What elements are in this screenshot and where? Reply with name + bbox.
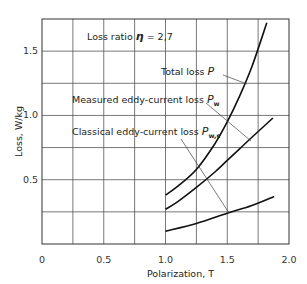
x-tick-label: 2.0 bbox=[281, 254, 296, 265]
classical-loss-label: Classical eddy-current loss Pw,c bbox=[72, 125, 220, 140]
loss-ratio-annotation: Loss ratio η = 2,7 bbox=[87, 30, 173, 43]
x-tick-label: 0 bbox=[39, 254, 45, 265]
x-axis-label: Polarization, T bbox=[147, 268, 214, 279]
y-axis-label: Loss, W/kg bbox=[13, 106, 24, 157]
loss-chart: 00.51.01.52.00.51.01.5Polarization, TLos… bbox=[0, 0, 307, 284]
total-loss-leader bbox=[223, 75, 247, 84]
total-loss-curve bbox=[166, 23, 267, 195]
y-tick-label: 1.0 bbox=[23, 109, 38, 120]
y-tick-label: 0.5 bbox=[23, 174, 38, 185]
total-loss-label: Total loss P bbox=[160, 65, 215, 78]
x-tick-label: 1.5 bbox=[220, 254, 235, 265]
x-tick-label: 1.0 bbox=[158, 254, 173, 265]
x-tick-label: 0.5 bbox=[96, 254, 111, 265]
y-tick-label: 1.5 bbox=[23, 45, 38, 56]
measured-loss-label: Measured eddy-current loss Pw bbox=[72, 93, 220, 108]
classical-loss-leader bbox=[181, 139, 229, 213]
